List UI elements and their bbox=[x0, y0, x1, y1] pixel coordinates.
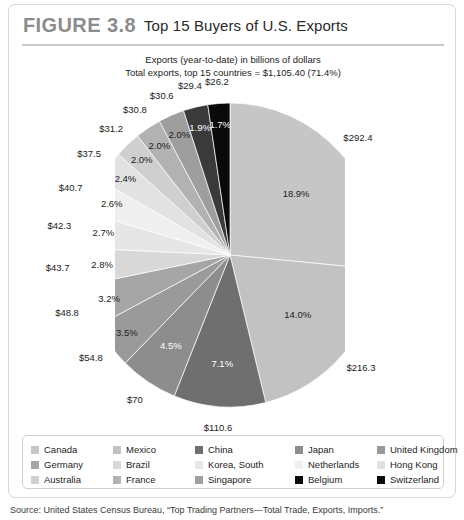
subtitle-line-2: Total exports, top 15 countries = $1,105… bbox=[9, 66, 457, 79]
pie-chart: 18.9%14.0%7.1%4.5%3.5%3.2%2.8%2.7%2.6%2.… bbox=[9, 83, 457, 431]
slice-percent-label: 2.0% bbox=[131, 154, 153, 165]
legend-swatch bbox=[31, 446, 39, 454]
slice-value-label: $40.7 bbox=[59, 182, 83, 193]
slice-value-label: $43.7 bbox=[46, 262, 70, 273]
slice-percent-label: 3.5% bbox=[116, 327, 138, 338]
legend-item[interactable]: Belgium bbox=[295, 474, 377, 485]
slice-percent-label: 3.2% bbox=[98, 293, 120, 304]
slice-value-label: $30.8 bbox=[123, 104, 147, 115]
legend-swatch bbox=[195, 461, 203, 469]
legend-label: Brazil bbox=[126, 459, 150, 470]
slice-value-label: $42.3 bbox=[48, 220, 72, 231]
legend-label: United Kingdom bbox=[390, 444, 458, 455]
legend-swatch bbox=[295, 461, 303, 469]
slice-percent-label: 7.1% bbox=[211, 358, 233, 369]
legend-swatch bbox=[377, 476, 385, 484]
slice-value-label: $54.8 bbox=[79, 352, 103, 363]
slice-value-label: $37.5 bbox=[77, 148, 101, 159]
legend-item[interactable]: Switzerland bbox=[377, 474, 464, 485]
legend-label: Canada bbox=[44, 444, 77, 455]
slice-percent-label: 1.9% bbox=[189, 122, 211, 133]
legend-swatch bbox=[31, 476, 39, 484]
legend-label: Switzerland bbox=[390, 474, 439, 485]
subtitle-line-1: Exports (year-to-date) in billions of do… bbox=[9, 53, 457, 66]
slice-percent-label: 2.6% bbox=[101, 198, 123, 209]
legend-item[interactable]: Singapore bbox=[195, 474, 295, 485]
legend-label: China bbox=[208, 444, 233, 455]
slice-percent-label: 4.5% bbox=[160, 340, 182, 351]
legend-swatch bbox=[377, 446, 385, 454]
slice-percent-label: 2.8% bbox=[91, 259, 113, 270]
legend-item[interactable]: China bbox=[195, 444, 295, 455]
slice-value-label: $110.6 bbox=[204, 422, 232, 433]
legend-swatch bbox=[113, 446, 121, 454]
slice-value-label: $70 bbox=[127, 394, 143, 405]
slice-value-label: $31.2 bbox=[99, 123, 123, 134]
figure-card: FIGURE 3.8 Top 15 Buyers of U.S. Exports… bbox=[8, 4, 456, 498]
slice-percent-label: 2.0% bbox=[168, 129, 190, 140]
legend-swatch bbox=[113, 461, 121, 469]
legend-item[interactable]: Japan bbox=[295, 444, 377, 455]
legend-item[interactable]: Canada bbox=[31, 444, 113, 455]
slice-value-label: $29.4 bbox=[178, 80, 202, 91]
legend-swatch bbox=[113, 476, 121, 484]
legend-swatch bbox=[295, 476, 303, 484]
slice-percent-label: 1.7% bbox=[209, 119, 231, 130]
legend-swatch bbox=[377, 461, 385, 469]
slice-percent-label: 2.0% bbox=[149, 140, 171, 151]
legend-item[interactable]: Australia bbox=[31, 474, 113, 485]
slice-value-label: $216.3 bbox=[346, 362, 375, 373]
legend-swatch bbox=[195, 476, 203, 484]
chart-legend: CanadaMexicoChinaJapanUnited KingdomGerm… bbox=[22, 435, 444, 489]
slice-value-label: $30.6 bbox=[150, 90, 174, 101]
legend-label: Korea, South bbox=[208, 459, 263, 470]
legend-swatch bbox=[31, 461, 39, 469]
legend-item[interactable]: Hong Kong bbox=[377, 459, 464, 470]
legend-item[interactable]: Germany bbox=[31, 459, 113, 470]
legend-label: Germany bbox=[44, 459, 83, 470]
legend-swatch bbox=[295, 446, 303, 454]
legend-label: Singapore bbox=[208, 474, 251, 485]
legend-grid: CanadaMexicoChinaJapanUnited KingdomGerm… bbox=[31, 442, 437, 487]
legend-label: Netherlands bbox=[308, 459, 359, 470]
legend-item[interactable]: France bbox=[113, 474, 195, 485]
legend-label: Belgium bbox=[308, 474, 342, 485]
legend-swatch bbox=[195, 446, 203, 454]
slice-percent-label: 18.9% bbox=[283, 188, 310, 199]
slice-value-label: $26.2 bbox=[205, 76, 229, 87]
legend-label: Mexico bbox=[126, 444, 156, 455]
legend-label: France bbox=[126, 474, 156, 485]
header-divider bbox=[22, 44, 444, 46]
slice-percent-label: 2.7% bbox=[93, 227, 115, 238]
legend-item[interactable]: Brazil bbox=[113, 459, 195, 470]
figure-title: Top 15 Buyers of U.S. Exports bbox=[144, 17, 348, 34]
source-note: Source: United States Census Bureau, “To… bbox=[10, 505, 460, 515]
legend-label: Australia bbox=[44, 474, 81, 485]
legend-item[interactable]: Korea, South bbox=[195, 459, 295, 470]
slice-value-label: $48.8 bbox=[55, 307, 79, 318]
slice-value-label: $292.4 bbox=[343, 132, 372, 143]
slice-percent-label: 14.0% bbox=[284, 309, 311, 320]
figure-header: FIGURE 3.8 Top 15 Buyers of U.S. Exports bbox=[9, 5, 455, 45]
slice-percent-label: 2.4% bbox=[115, 173, 137, 184]
legend-item[interactable]: Netherlands bbox=[295, 459, 377, 470]
pie-slice[interactable] bbox=[230, 103, 345, 269]
legend-label: Japan bbox=[308, 444, 334, 455]
figure-number: FIGURE 3.8 bbox=[23, 14, 136, 37]
legend-label: Hong Kong bbox=[390, 459, 438, 470]
legend-item[interactable]: United Kingdom bbox=[377, 444, 464, 455]
legend-item[interactable]: Mexico bbox=[113, 444, 195, 455]
chart-subtitle: Exports (year-to-date) in billions of do… bbox=[9, 53, 457, 79]
